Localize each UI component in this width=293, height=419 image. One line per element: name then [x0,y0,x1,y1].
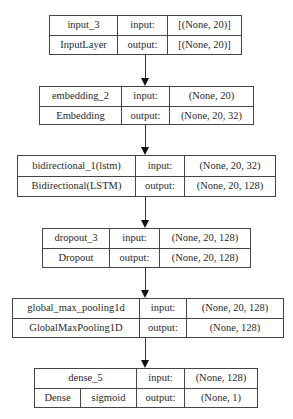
input-shape: (None, 20) [170,87,253,106]
layer-type: Bidirectional(LSTM) [18,177,135,196]
edge-line [145,268,146,290]
input-shape: (None, 20, 32) [185,156,275,176]
arrow-down-icon [141,220,149,228]
output-shape: (None, 20, 32) [170,107,253,125]
output-shape: (None, 128) [187,319,283,337]
layer-type: InputLayer [50,36,117,55]
input-label: input: [122,87,169,106]
arrow-down-icon [141,147,149,155]
input-shape: (None, 20, 128) [160,229,250,248]
output-label: output: [136,177,184,196]
edge-line [145,55,146,78]
layer-type: GlobalMaxPooling1D [13,319,139,337]
node-global-max-pooling1d: global_max_pooling1d GlobalMaxPooling1D … [12,298,284,338]
output-shape: (None, 20, 128) [160,249,250,267]
layer-name: bidirectional_1(lstm) [18,156,135,176]
edge-line [145,125,146,147]
input-shape: (None, 20, 128) [187,299,283,318]
output-shape: (None, 1) [185,389,257,407]
layer-name: input_3 [50,16,117,35]
edge-line [145,197,146,220]
node-dense-5: dense_5 Dense sigmoid input: output: (No… [34,368,258,408]
input-label: input: [118,16,167,35]
output-shape: [(None, 20)] [168,36,241,55]
input-shape: (None, 128) [185,369,257,388]
output-label: output: [118,36,167,55]
layer-name: global_max_pooling1d [13,299,139,318]
output-label: output: [122,107,169,125]
input-label: input: [110,229,159,248]
input-shape: [(None, 20)] [168,16,241,35]
layer-activation: sigmoid [81,389,136,407]
node-dropout-3: dropout_3 Dropout input: output: (None, … [42,228,251,268]
layer-type: Dense [35,389,80,407]
arrow-down-icon [141,360,149,368]
node-input-3: input_3 InputLayer input: output: [(None… [49,15,242,55]
layer-type: Dropout [43,249,109,267]
node-embedding-2: embedding_2 Embedding input: output: (No… [39,86,254,125]
arrow-down-icon [141,78,149,86]
input-label: input: [136,156,184,176]
output-shape: (None, 20, 128) [185,177,275,196]
arrow-down-icon [141,290,149,298]
node-bidirectional-1: bidirectional_1(lstm) Bidirectional(LSTM… [17,155,276,197]
edge-line [145,338,146,360]
output-label: output: [140,319,186,337]
layer-name: embedding_2 [40,87,121,106]
input-label: input: [137,369,184,388]
input-label: input: [140,299,186,318]
layer-name: dense_5 [35,369,136,388]
layer-name: dropout_3 [43,229,109,248]
output-label: output: [110,249,159,267]
layer-type: Embedding [40,107,121,125]
output-label: output: [137,389,184,407]
